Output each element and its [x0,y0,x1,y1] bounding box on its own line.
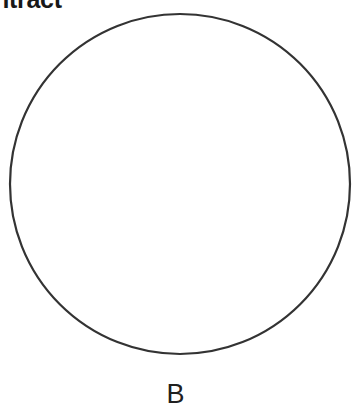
circle-outline-icon [0,0,357,365]
circle-shape-container [0,0,357,365]
figure-canvas: ntract B [0,0,357,410]
circle-outline-path [10,14,350,354]
shape-label-b: B [0,381,357,408]
